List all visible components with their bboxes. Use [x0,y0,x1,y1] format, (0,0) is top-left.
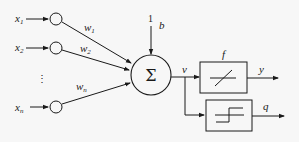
ellipsis: ⋮ [37,73,47,84]
diagram-svg: x1 w1 x2 w2 ⋮ xn wn 1 b [0,0,299,142]
weight-line-n [62,83,130,104]
quantizer-block: q [206,100,284,131]
weight-line-2 [62,50,129,70]
weight-label-wn: wn [76,80,87,94]
bias-label: b [159,19,165,31]
neuron-diagram: x1 w1 x2 w2 ⋮ xn wn 1 b [0,0,299,142]
input-label-x1: x1 [14,12,23,26]
summation-node: Σ [131,55,171,95]
weight-label-w1: w1 [84,21,95,35]
net-output-label: v [182,63,187,75]
branch-arrow [185,77,204,115]
weight-label-w2: w2 [80,42,91,56]
linear-ramp-icon [210,70,236,86]
input-node-2 [50,42,62,54]
input-node-1 [50,13,62,25]
activation-block: f y [200,48,278,93]
input-x1: x1 w1 [14,12,131,63]
weight-line-1 [62,22,131,63]
bias-input-label: 1 [148,13,153,24]
activation-label: f [222,48,227,60]
input-node-n [50,101,62,113]
input-xn: xn wn [14,80,130,115]
input-x2: x2 w2 [14,41,129,70]
input-label-x2: x2 [14,41,24,55]
sigma-symbol: Σ [145,66,156,85]
input-label-xn: xn [14,101,24,115]
bias: 1 b [148,13,165,54]
activation-output-label: y [258,63,264,75]
quantizer-output-label: q [263,100,269,112]
step-function-icon [215,108,244,122]
